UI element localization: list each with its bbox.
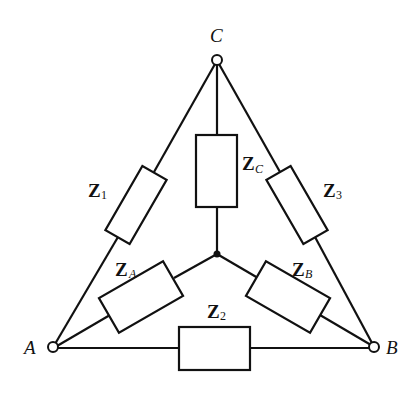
label-zb: Z B [292, 259, 313, 281]
svg-text:3: 3 [336, 188, 342, 202]
terminal-c [212, 55, 222, 65]
impedance-z3 [266, 166, 327, 244]
label-z3: Z 3 [323, 180, 342, 202]
svg-text:Z: Z [88, 180, 101, 201]
wire-z3-b [315, 237, 372, 343]
terminal-a [48, 342, 58, 352]
svg-text:Z: Z [115, 259, 128, 280]
circuit-diagram: C A B Z 1 Z 3 Z C Z 2 Z A Z B [0, 0, 416, 398]
wire-n-za [174, 254, 217, 278]
node-label-b: B [386, 337, 398, 358]
svg-text:A: A [128, 267, 137, 281]
label-z2: Z 2 [207, 301, 226, 323]
node-label-c: C [210, 25, 223, 46]
label-zc: Z C [242, 153, 264, 176]
label-z1: Z 1 [88, 180, 107, 202]
svg-text:Z: Z [292, 259, 305, 280]
svg-text:Z: Z [242, 153, 255, 174]
node-label-a: A [22, 337, 36, 358]
impedance-zb [246, 261, 330, 333]
svg-text:Z: Z [207, 301, 220, 322]
wire-za-a [57, 315, 110, 346]
neutral-node [214, 251, 221, 258]
impedance-za [99, 261, 183, 333]
wire-n-zb [217, 254, 258, 278]
svg-text:2: 2 [220, 309, 226, 323]
svg-text:1: 1 [101, 188, 107, 202]
label-za: Z A [115, 259, 137, 281]
wire-zb-b [320, 315, 371, 345]
svg-text:Z: Z [323, 180, 336, 201]
impedance-zc [196, 135, 237, 207]
svg-text:B: B [305, 267, 313, 281]
impedance-z1 [105, 166, 166, 244]
svg-text:C: C [255, 162, 264, 176]
impedance-z2 [179, 327, 250, 370]
terminal-b [369, 342, 379, 352]
